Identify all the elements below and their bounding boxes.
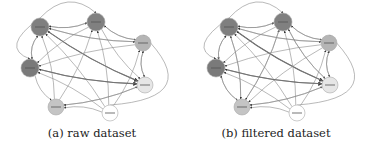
graph-edge	[141, 51, 145, 77]
graph-filtered-dataset	[184, 0, 368, 128]
graph-edge	[64, 107, 102, 112]
graph-edge	[224, 72, 290, 109]
node-label-placeholder	[105, 112, 115, 114]
graph-edge	[230, 36, 240, 99]
node-label-placeholder	[91, 21, 101, 23]
graph-edge	[238, 23, 274, 28]
graph-edge	[38, 72, 103, 109]
node-label-placeholder	[140, 84, 150, 86]
graph-edge	[48, 31, 138, 81]
graph-edge	[35, 75, 52, 100]
node-label-placeholder	[237, 106, 247, 108]
node-label-placeholder	[292, 112, 302, 114]
panel-raw-dataset: (a) raw dataset	[0, 0, 184, 152]
graph-edge	[39, 45, 135, 66]
graph-edge	[104, 26, 135, 40]
graph-edge	[31, 36, 37, 60]
node-label-placeholder	[325, 84, 335, 86]
graph-edge	[97, 31, 108, 105]
graph-edge-curved	[229, 2, 283, 18]
graph-edge	[237, 31, 323, 81]
graph-edge	[291, 26, 322, 40]
node-label-placeholder	[35, 26, 45, 28]
graph-edge	[221, 75, 238, 100]
node-label-placeholder	[324, 42, 334, 44]
node-label-placeholder	[224, 26, 234, 28]
graph-edge	[31, 36, 37, 60]
node-label-placeholder	[138, 42, 148, 44]
graph-edge	[237, 31, 323, 81]
node-label-placeholder	[278, 21, 288, 23]
graph-edge	[291, 26, 322, 40]
graph-edge	[104, 26, 135, 40]
graph-edge	[221, 75, 238, 100]
node-label-placeholder	[211, 67, 221, 69]
caption-filtered-dataset: (b) filtered dataset	[184, 126, 368, 140]
graph-raw-dataset	[0, 0, 184, 128]
graph-edge	[42, 36, 55, 99]
graph-edge	[248, 48, 322, 103]
node-label-placeholder	[25, 67, 35, 69]
graph-edge	[250, 107, 289, 112]
graph-edge	[230, 36, 240, 99]
caption-raw-dataset: (a) raw dataset	[0, 126, 184, 140]
graph-edge	[288, 29, 325, 78]
graph-edge	[48, 31, 138, 81]
node-label-placeholder	[51, 106, 61, 108]
graph-edge	[218, 36, 226, 60]
graph-edge	[49, 23, 87, 28]
panel-filtered-dataset: (b) filtered dataset	[184, 0, 368, 152]
graph-edge-curved	[40, 2, 96, 18]
graph-edge	[113, 50, 139, 106]
graph-edge	[288, 29, 325, 78]
graph-edge	[235, 34, 292, 107]
graph-edge	[326, 51, 329, 77]
